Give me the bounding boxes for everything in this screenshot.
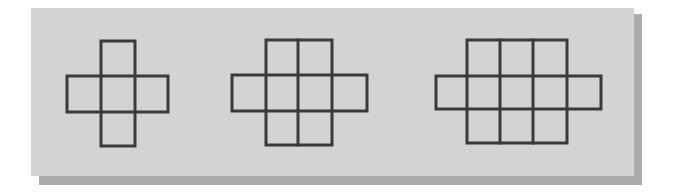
row-outline bbox=[436, 76, 601, 109]
column-outline bbox=[101, 41, 135, 146]
column-outline bbox=[467, 40, 567, 143]
figures-canvas bbox=[0, 0, 677, 194]
row-outline bbox=[67, 76, 168, 112]
figure-1 bbox=[67, 41, 168, 146]
figure-2 bbox=[232, 40, 367, 145]
figure-3 bbox=[436, 40, 601, 143]
